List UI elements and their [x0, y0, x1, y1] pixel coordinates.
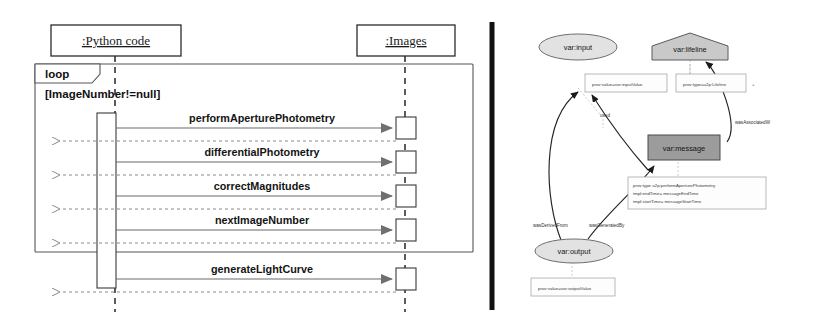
activation-images-1: [396, 117, 416, 139]
activation-images-4: [396, 219, 416, 241]
prov-attrs-lifeline: prov:type=u2p:Lifeline +: [676, 74, 755, 92]
edge-was-derived-from: [549, 92, 578, 240]
activation-python: [97, 113, 116, 288]
prov-attrs-input: prov:value=var:inputValue: [585, 74, 667, 92]
prov-attrs-lifeline-plus: +: [752, 82, 755, 87]
prov-node-input: var:input: [539, 34, 617, 60]
edge-used: [592, 95, 648, 170]
loop-operator-label: loop: [45, 68, 69, 80]
lifeline-label-images: :Images: [385, 33, 426, 48]
message-label-5: generateLightCurve: [211, 263, 313, 275]
prov-node-input-label: var:input: [564, 43, 592, 52]
prov-graph: used wasAssociatedW wasDerivedFrom wasGe…: [531, 33, 771, 296]
prov-node-output-label: var:output: [558, 247, 591, 256]
prov-attrs-message-line-1: prov:type u2p:performAperturePhotometry: [633, 183, 716, 188]
prov-node-message: var:message: [648, 135, 720, 160]
prov-node-lifeline-label: var:lifeline: [673, 45, 706, 54]
message-label-3: correctMagnitudes: [214, 180, 311, 192]
message-label-4: nextImageNumber: [215, 214, 310, 226]
prov-attrs-message: prov:type u2p:performAperturePhotometry …: [628, 177, 766, 209]
figure-canvas: loop [ImageNumber!=null] :Python code :I…: [0, 0, 834, 332]
prov-attrs-output: prov:value=var:outputValue: [531, 278, 615, 296]
edge-label-used: used: [600, 113, 610, 118]
message-label-1: performAperturePhotometry: [189, 112, 335, 124]
loop-guard-label: [ImageNumber!=null]: [45, 88, 161, 100]
prov-attrs-lifeline-line-1: prov:type=u2p:Lifeline: [683, 82, 727, 87]
activation-images-5: [396, 268, 416, 290]
figure-svg: loop [ImageNumber!=null] :Python code :I…: [0, 0, 834, 332]
activation-images-2: [396, 151, 416, 173]
edge-label-was-derived-from: wasDerivedFrom: [533, 223, 568, 228]
prov-node-lifeline: var:lifeline: [652, 33, 728, 60]
prov-attrs-output-line-1: prov:value=var:outputValue: [538, 286, 592, 291]
lifeline-label-python: :Python code: [82, 33, 150, 48]
edge-label-was-generated-by: wasGeneratedBy: [589, 223, 625, 228]
prov-node-message-label: var:message: [663, 144, 705, 153]
message-label-2: differentialPhotometry: [204, 146, 319, 158]
prov-attrs-message-line-2: tmpl:endTime= messageEndTime: [633, 191, 699, 196]
prov-node-output: var:output: [535, 239, 613, 263]
activation-images-3: [396, 185, 416, 207]
prov-attrs-input-line-1: prov:value=var:inputValue: [592, 82, 643, 87]
prov-attrs-message-line-3: tmpl:startTime= messageStartTime: [633, 199, 702, 204]
edge-label-was-associated-with: wasAssociatedW: [735, 120, 771, 125]
input-attr-connector: [578, 88, 603, 128]
sequence-diagram: loop [ImageNumber!=null] :Python code :I…: [35, 25, 473, 312]
